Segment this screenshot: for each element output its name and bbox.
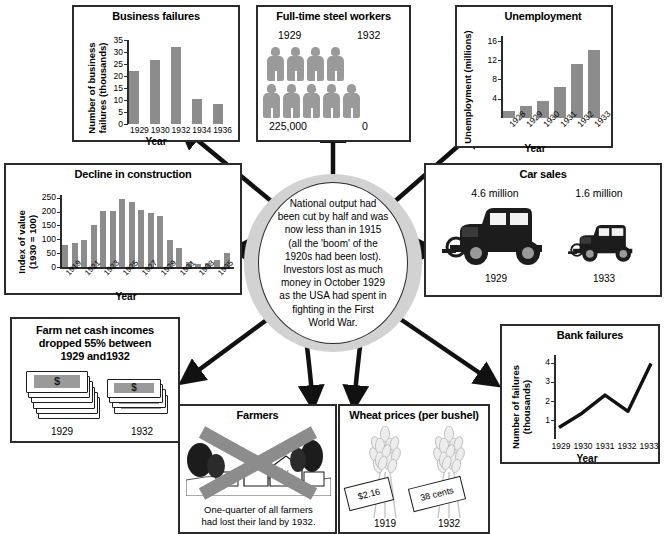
panel-bank-failures: Bank failures Number of failures (thousa… — [500, 324, 660, 464]
car-icon-1933 — [568, 221, 640, 265]
bank-failures-chart: Number of failures (thousands) 1234 1929… — [502, 341, 658, 477]
worker-icon — [303, 84, 320, 118]
y-tick-label: 10 — [101, 95, 123, 105]
bar — [213, 104, 223, 124]
x-tick-label: 1936 — [212, 125, 233, 135]
farm-incomes-year-right: 1932 — [112, 426, 172, 437]
wheat-prices-title: Wheat prices (per bushel) — [340, 409, 488, 421]
y-tick-label: 50 — [34, 248, 56, 258]
unemployment-chart: Unemployment (millions) 481216 192819291… — [457, 22, 611, 161]
worker-icon — [267, 47, 284, 81]
bank-failures-polyline — [559, 364, 651, 428]
x-tick-label: 1931 — [594, 441, 616, 451]
cross-out-icon — [194, 426, 322, 500]
panel-unemployment: Unemployment Unemployment (millions) 481… — [455, 5, 613, 148]
panel-business-failures: Business failures Number of business fai… — [72, 5, 240, 142]
x-tick-label: 1934 — [191, 125, 212, 135]
y-tick-label: 35 — [101, 35, 123, 45]
x-tick-label: 1930 — [150, 125, 171, 135]
car-sales-value-right: 1.6 million — [554, 187, 644, 199]
worker-icon — [323, 84, 340, 118]
infographic-canvas: National output had been cut by half and… — [0, 0, 665, 534]
banknote-icon: $ — [107, 379, 161, 398]
car-sales-year-right: 1933 — [564, 273, 644, 284]
y-tick-label: 3 — [528, 376, 550, 386]
construction-chart: Index of value (1930 = 100) 050100150200… — [6, 180, 240, 308]
steel-workers-value-left: 225,000 — [269, 120, 307, 132]
unemployment-bars — [503, 36, 604, 118]
bar — [62, 245, 68, 267]
y-tick-label: 25 — [101, 59, 123, 69]
y-tick-label: 2 — [528, 396, 550, 406]
y-tick-label: 5 — [101, 107, 123, 117]
y-tick-label: 200 — [34, 206, 56, 216]
panel-car-sales: Car sales 4.6 million 1.6 million 1929 — [424, 163, 662, 297]
farm-incomes-year-left: 1929 — [32, 426, 92, 437]
construction-xlabel: Year — [46, 291, 206, 302]
bar — [100, 211, 106, 267]
unemployment-ylabel: Unemployment (millions) — [462, 24, 473, 150]
farmers-title: Farmers — [180, 409, 335, 421]
money-stack-1929: $$$$$$ — [26, 371, 106, 423]
steel-workers-title: Full-time steel workers — [258, 10, 409, 22]
central-summary-oval: National output had been cut by half and… — [258, 182, 408, 344]
y-tick-label: 15 — [101, 83, 123, 93]
bank-failures-xlabels: 19291930193119321933 — [550, 441, 660, 451]
bar — [157, 216, 163, 267]
business-failures-bars — [129, 40, 233, 124]
panel-wheat-prices: Wheat prices (per bushel) — [338, 404, 490, 534]
bank-failures-xlabel: Year — [532, 453, 642, 464]
y-tick-label: 20 — [101, 71, 123, 81]
unemployment-xlabel: Year — [475, 143, 595, 154]
worker-icon — [263, 84, 280, 118]
y-tick-label: 250 — [34, 192, 56, 202]
car-sales-year-left: 1929 — [456, 273, 536, 284]
panel-farm-incomes: Farm net cash incomes dropped 55% betwee… — [10, 317, 180, 443]
car-sales-value-left: 4.6 million — [450, 187, 540, 199]
worker-icon — [327, 47, 344, 81]
bank-failures-title: Bank failures — [522, 329, 658, 341]
y-tick-label: 12 — [475, 55, 497, 65]
x-tick-label: 1930 — [572, 441, 594, 451]
worker-icon — [287, 47, 304, 81]
bar — [138, 210, 144, 267]
construction-bars — [62, 195, 234, 267]
y-tick-label: 30 — [101, 47, 123, 57]
bank-failures-line — [556, 355, 654, 439]
worker-icon — [283, 84, 300, 118]
bar — [588, 50, 600, 118]
steel-workers-value-right: 0 — [362, 120, 368, 132]
y-tick-label: 100 — [34, 234, 56, 244]
y-tick-label: 0 — [34, 262, 56, 272]
wheat-prices-year-right: 1932 — [420, 518, 478, 529]
y-tick-mark — [124, 124, 128, 125]
business-failures-title: Business failures — [74, 10, 238, 22]
construction-title: Decline in construction — [26, 168, 240, 180]
y-tick-label: 4 — [475, 93, 497, 103]
x-tick-label: 1932 — [616, 441, 638, 451]
business-failures-chart: Number of business failures (thousands) … — [74, 22, 238, 155]
bar — [129, 71, 139, 124]
bar — [192, 99, 202, 124]
pictogram-row — [263, 84, 360, 118]
y-tick-label: 4 — [528, 357, 550, 367]
panel-construction: Decline in construction Index of value (… — [4, 163, 242, 295]
arrow-to-bank-failures — [390, 312, 487, 378]
farm-incomes-title: Farm net cash incomes dropped 55% betwee… — [12, 324, 178, 363]
steel-workers-pictogram — [263, 47, 360, 118]
pictogram-row — [267, 47, 360, 81]
car-icon-1929 — [442, 203, 554, 269]
y-tick-label: 1 — [528, 415, 550, 425]
x-tick-label: 1933 — [638, 441, 660, 451]
y-tick-label: 8 — [475, 74, 497, 84]
central-summary-text: National output had been cut by half and… — [266, 197, 401, 329]
x-tick-label: 1929 — [129, 125, 150, 135]
wheat-prices-year-left: 1919 — [356, 518, 414, 529]
business-failures-xlabel: Year — [74, 136, 238, 147]
panel-farmers: Farmers One-quarter of all farmers had l… — [178, 404, 337, 534]
y-tick-label: 0 — [101, 119, 123, 129]
car-sales-title: Car sales — [426, 168, 660, 180]
money-stack-1932: $$$$ — [107, 379, 175, 421]
worker-icon — [307, 47, 324, 81]
steel-workers-year-right: 1932 — [357, 29, 380, 41]
